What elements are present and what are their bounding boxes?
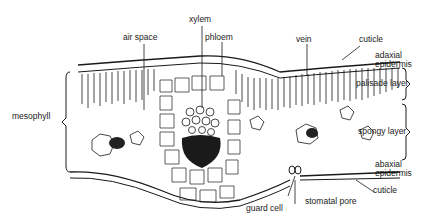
label-guard-cell: guard cell xyxy=(246,204,283,213)
label-abaxial-epidermis: epidermis xyxy=(375,169,412,178)
vein-dark-left xyxy=(109,137,125,149)
label-cuticle-top: cuticle xyxy=(359,35,383,44)
label-cuticle-bottom: cuticle xyxy=(373,186,397,195)
guard-cell-right xyxy=(295,166,301,174)
label-air-space: air space xyxy=(123,33,158,42)
label-adaxial-epidermis: epidermis xyxy=(375,60,412,69)
guard-cell-left xyxy=(289,166,295,174)
label-palisade-layer: palisade layer xyxy=(356,79,408,88)
phloem-mass xyxy=(182,135,221,168)
upper-epidermis xyxy=(78,56,400,72)
label-stomatal-pore: stomatal pore xyxy=(305,197,357,206)
label-xylem: xylem xyxy=(189,15,211,24)
spongy-cells xyxy=(92,106,374,156)
mesophyll-bracket xyxy=(62,72,70,172)
label-spongy-layer: spongy layer xyxy=(358,127,406,136)
xylem-vessels xyxy=(182,106,219,136)
label-phloem: phloem xyxy=(205,33,233,42)
label-vein: vein xyxy=(296,35,312,44)
label-mesophyll: mesophyll xyxy=(12,112,50,121)
vein-dark-right xyxy=(306,128,318,138)
